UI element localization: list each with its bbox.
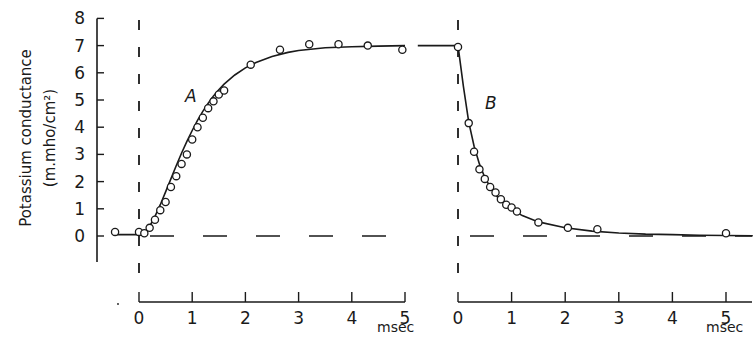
data-point: [564, 224, 571, 231]
x-tick-label: 4: [346, 308, 357, 328]
x-tick-label: 1: [187, 308, 198, 328]
y-tick-label: 3: [74, 144, 85, 164]
y-tick-label: 5: [74, 90, 85, 110]
y-tick-label: 1: [74, 199, 85, 219]
data-point: [205, 105, 212, 112]
data-point: [476, 166, 483, 173]
data-point: [173, 173, 180, 180]
data-point: [364, 42, 371, 49]
data-point: [194, 124, 201, 131]
data-point: [306, 41, 313, 48]
data-point: [276, 46, 283, 53]
data-point: [470, 148, 477, 155]
x-axis-unit-b: msec: [706, 319, 743, 335]
y-tick-label: 4: [74, 117, 85, 137]
y-axis: 012345678: [74, 8, 119, 305]
y-axis-units: (m.mho/cm²): [41, 89, 59, 187]
data-point: [151, 216, 158, 223]
data-point: [162, 198, 169, 205]
data-point: [513, 208, 520, 215]
x-tick-label: 3: [613, 308, 624, 328]
data-point: [157, 207, 164, 214]
x-tick-label: 4: [667, 308, 678, 328]
x-tick-label: 0: [134, 308, 145, 328]
x-tick-label: 0: [453, 308, 464, 328]
data-point: [146, 224, 153, 231]
potassium-conductance-chart: Potassium conductance (m.mho/cm²) 012345…: [0, 0, 755, 350]
data-point: [594, 226, 601, 233]
panel-a-label: A: [184, 86, 197, 106]
data-point: [492, 189, 499, 196]
x-tick-label: 3: [293, 308, 304, 328]
data-point: [722, 230, 729, 237]
y-axis-title: Potassium conductance: [17, 49, 35, 227]
x-tick-label: 1: [506, 308, 517, 328]
data-point: [465, 120, 472, 127]
y-tick-label: 0: [74, 226, 85, 246]
data-point: [210, 98, 217, 105]
panel-b-label: B: [485, 93, 497, 113]
data-point: [167, 183, 174, 190]
y-tick-label: 6: [74, 63, 85, 83]
y-tick-label: 8: [74, 8, 85, 28]
data-point: [189, 136, 196, 143]
data-point: [454, 43, 461, 50]
data-point: [111, 228, 118, 235]
data-point: [178, 160, 185, 167]
x-axis-unit-a: msec: [377, 319, 414, 335]
data-point: [481, 175, 488, 182]
y-axis-label: Potassium conductance (m.mho/cm²): [17, 49, 59, 227]
data-point: [335, 41, 342, 48]
fitted-curve: [115, 46, 405, 235]
data-point: [199, 114, 206, 121]
y-tick-label: 2: [74, 172, 85, 192]
data-point: [183, 151, 190, 158]
stray-mark: [117, 303, 119, 305]
panel-b: 012345: [418, 20, 753, 328]
data-point: [535, 219, 542, 226]
data-point: [399, 46, 406, 53]
data-point: [221, 87, 228, 94]
data-point: [247, 61, 254, 68]
x-tick-label: 2: [240, 308, 251, 328]
y-tick-label: 7: [74, 36, 85, 56]
fitted-curve: [418, 46, 753, 236]
panel-a: 012345: [111, 20, 410, 328]
x-tick-label: 2: [560, 308, 571, 328]
